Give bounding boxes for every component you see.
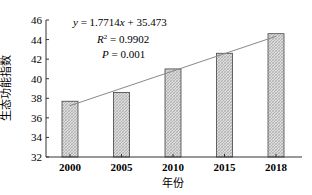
y-tick-label: 46 <box>31 14 43 26</box>
x-tick-label: 2018 <box>265 161 288 173</box>
y-tick-label: 32 <box>31 151 42 163</box>
x-tick-label: 2010 <box>162 161 185 173</box>
bar-2005 <box>114 92 130 157</box>
r-squared-annotation: R2 = 0.9902 <box>96 33 149 45</box>
x-tick-label: 2000 <box>59 161 82 173</box>
x-tick-label: 2015 <box>214 161 237 173</box>
bar-2015 <box>217 53 233 157</box>
y-tick-label: 36 <box>31 112 43 124</box>
x-axis-label: 年份 <box>162 176 184 190</box>
x-tick-label: 2005 <box>111 161 134 173</box>
y-tick-label: 40 <box>31 73 43 85</box>
y-axis-label: 生态功能指数 <box>0 55 13 121</box>
y-tick-label: 38 <box>31 92 43 104</box>
y-tick-label: 44 <box>31 34 43 46</box>
bar-chart: 3234363840424446 20002005201020152018 生态… <box>0 0 312 195</box>
y-tick-label: 42 <box>31 53 42 65</box>
bar-2000 <box>62 101 78 157</box>
regression-equation: y = 1.7714x + 35.473 <box>72 16 167 28</box>
p-value-annotation: P = 0.001 <box>101 48 145 60</box>
y-tick-label: 34 <box>31 131 43 143</box>
bars-group <box>62 34 284 157</box>
bar-2010 <box>165 69 181 157</box>
bar-2018 <box>268 34 284 157</box>
chart-canvas: 3234363840424446 20002005201020152018 生态… <box>0 0 312 195</box>
